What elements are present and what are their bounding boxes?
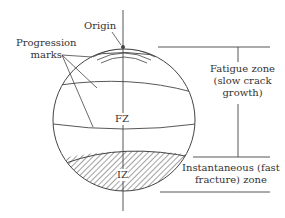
instantaneous-line-2: fracture) zone: [182, 174, 280, 186]
origin-label: Origin: [84, 20, 116, 32]
fz-label: FZ: [115, 113, 129, 125]
origin-point: [121, 45, 125, 49]
progression-marks-label: Progression marks: [16, 37, 77, 61]
progression-mark-2: [60, 81, 192, 92]
instantaneous-zone-label: Instantaneous (fast fracture) zone: [182, 162, 280, 186]
fatigue-zone-line-1: Fatigue zone: [210, 63, 275, 75]
fatigue-zone-line-2: (slow crack: [210, 75, 275, 87]
fatigue-zone-label: Fatigue zone (slow crack growth): [210, 63, 275, 99]
fatigue-zone-line-3: growth): [210, 87, 275, 99]
progression-marks-line-1: Progression: [16, 37, 77, 49]
iz-label: IZ: [117, 169, 128, 181]
progression-marks-line-2: marks: [16, 49, 77, 61]
instantaneous-line-1: Instantaneous (fast: [182, 162, 280, 174]
